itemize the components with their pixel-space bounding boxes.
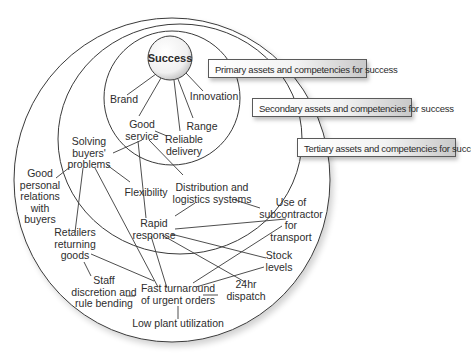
node-flexibility: Flexibility	[124, 187, 167, 199]
node-24hr-dispatch: 24hr dispatch	[226, 279, 265, 302]
tier-label-primary: Primary assets and competencies for succ…	[208, 59, 367, 78]
node-retailers-returning-goods: Retailers returning goods	[54, 227, 95, 262]
node-low-plant-utilization: Low plant utilization	[132, 318, 224, 330]
node-use-of-subcontractor: Use of subcontractor for transport	[259, 197, 323, 243]
tier-label-tertiary: Tertiary assets and competencies for suc…	[297, 138, 456, 157]
node-innovation: Innovation	[190, 91, 238, 103]
node-good-service: Good service	[125, 119, 158, 142]
node-solving-buyers-problems: Solving buyers' problems	[67, 136, 110, 171]
success-label: Success	[148, 52, 193, 64]
node-brand: Brand	[110, 94, 138, 106]
node-staff-discretion: Staff discretion and rule bending	[71, 275, 136, 310]
node-distribution-logistics: Distribution and logistics systems	[173, 182, 252, 205]
node-good-personal-relations: Good personal relations with buyers	[20, 168, 60, 226]
node-stock-levels: Stock levels	[266, 250, 293, 273]
node-range: Range	[187, 121, 218, 133]
node-fast-turnaround: Fast turnaround of urgent orders	[141, 283, 215, 306]
tier-label-secondary: Secondary assets and competencies for su…	[252, 98, 412, 117]
node-reliable-delivery: Reliable delivery	[165, 134, 203, 157]
node-rapid-response: Rapid response	[132, 218, 175, 241]
success-assets-diagram: Success Brand Innovation Good service Ra…	[0, 0, 471, 357]
